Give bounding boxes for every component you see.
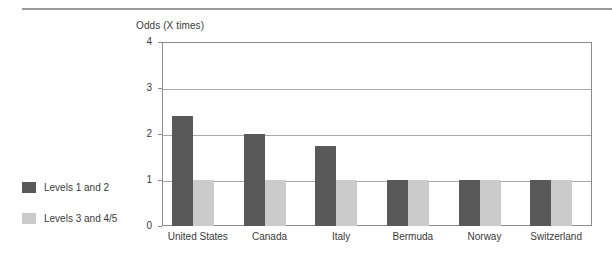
x-tick-label: Italy — [305, 231, 377, 242]
y-tick-mark-1 — [158, 180, 162, 181]
legend-item[interactable]: Levels 3 and 4/5 — [22, 211, 152, 225]
y-tick-label-3: 3 — [130, 83, 152, 93]
gridline-3 — [163, 89, 591, 90]
legend-item[interactable]: Levels 1 and 2 — [22, 180, 152, 194]
legend-item-label: Levels 3 and 4/5 — [44, 213, 117, 224]
y-tick-mark-2 — [158, 134, 162, 135]
y-tick-mark-4 — [158, 42, 162, 43]
legend-swatch-icon — [22, 213, 36, 224]
x-tick-label: Switzerland — [520, 231, 592, 242]
y-axis-title: Odds (X times) — [136, 20, 204, 31]
odds-bar-chart: Odds (X times) 01234 United StatesCanada… — [0, 0, 612, 262]
legend-swatch-icon — [22, 182, 36, 193]
y-tick-label-2: 2 — [130, 129, 152, 139]
x-tick-label: Canada — [234, 231, 306, 242]
gridline-1 — [163, 181, 591, 182]
chart-legend: Levels 1 and 2Levels 3 and 4/5 — [22, 180, 152, 242]
x-tick-label: United States — [162, 231, 234, 242]
x-tick-label: Bermuda — [377, 231, 449, 242]
legend-item-label: Levels 1 and 2 — [44, 182, 109, 193]
gridline-2 — [163, 135, 591, 136]
plot-area — [162, 42, 592, 226]
y-tick-mark-0 — [158, 226, 162, 227]
y-tick-label-4: 4 — [130, 37, 152, 47]
y-tick-mark-3 — [158, 88, 162, 89]
x-tick-label: Norway — [449, 231, 521, 242]
